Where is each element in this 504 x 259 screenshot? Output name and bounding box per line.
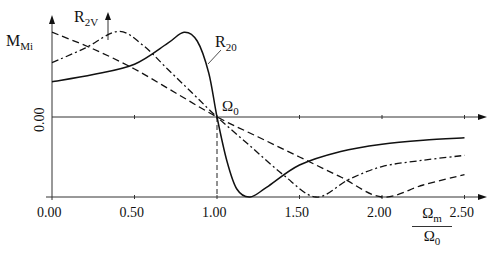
- r2v-label: R2V: [74, 8, 98, 28]
- r20-label-sub: 20: [226, 41, 237, 53]
- x-axis-label-numerator: Ωm: [412, 205, 452, 227]
- y-axis-label-sub: Mi: [20, 40, 33, 52]
- x-axis-zero-arrow-icon: [478, 114, 487, 120]
- y-axis-arrow-icon: [49, 15, 55, 24]
- r20-label: R20: [215, 33, 237, 53]
- x-tick-label: 1.50: [285, 205, 310, 221]
- y-tick-zero: 0.00: [32, 108, 48, 133]
- curve-r20: [52, 32, 465, 197]
- x-axis-bottom-arrow-icon: [478, 194, 487, 200]
- omega0-label: Ω0: [222, 98, 239, 117]
- y-axis-label-main: M: [6, 32, 20, 49]
- curve-dashed: [52, 32, 465, 197]
- x-den-sub: 0: [435, 235, 441, 247]
- x-tick-label: 2.50: [450, 205, 475, 221]
- curves: [52, 31, 465, 197]
- axes: [46, 18, 480, 200]
- curve-r2v: [52, 31, 465, 197]
- y-axis-label: MMi: [6, 32, 33, 52]
- r2v-arrow-icon: [105, 12, 111, 20]
- x-axis-label: Ωm Ω0: [412, 205, 452, 247]
- r20-label-main: R: [215, 33, 226, 50]
- r2v-label-main: R: [74, 8, 85, 25]
- x-tick-label: 0.00: [37, 205, 62, 221]
- x-tick-label: 0.50: [120, 205, 145, 221]
- x-den-main: Ω: [424, 228, 435, 244]
- x-tick-label: 1.00: [202, 205, 227, 221]
- x-num-sub: m: [433, 212, 442, 224]
- omega0-label-main: Ω: [222, 98, 233, 114]
- x-tick-label: 2.00: [367, 205, 392, 221]
- r2v-label-sub: 2V: [85, 16, 98, 28]
- x-axis-label-denominator: Ω0: [412, 227, 452, 247]
- x-num-main: Ω: [422, 205, 433, 221]
- omega0-label-sub: 0: [233, 105, 239, 117]
